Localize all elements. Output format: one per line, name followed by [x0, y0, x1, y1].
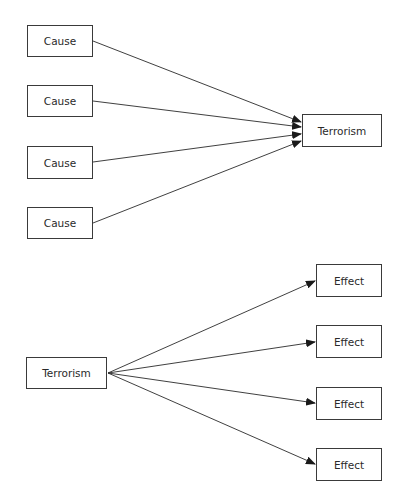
cause-label: Cause	[44, 35, 76, 47]
effect-box-4: Effect	[316, 448, 382, 481]
effect-label: Effect	[334, 459, 364, 471]
effect-box-1: Effect	[316, 264, 382, 297]
cause-label: Cause	[44, 95, 76, 107]
effect-box-2: Effect	[316, 325, 382, 358]
terrorism-label: Terrorism	[42, 367, 91, 379]
effect-box-3: Effect	[316, 387, 382, 420]
cause-label: Cause	[44, 217, 76, 229]
arrow-terrorism-to-effect-4	[108, 373, 315, 464]
arrow-cause-2-to-terrorism	[93, 101, 301, 127]
cause-box-2: Cause	[27, 85, 93, 117]
arrow-cause-1-to-terrorism	[93, 41, 301, 122]
effect-label: Effect	[334, 398, 364, 410]
effect-label: Effect	[334, 275, 364, 287]
terrorism-target-box: Terrorism	[302, 114, 382, 147]
terrorism-label: Terrorism	[318, 125, 367, 137]
cause-label: Cause	[44, 157, 76, 169]
arrow-cause-4-to-terrorism	[93, 141, 301, 223]
arrow-terrorism-to-effect-3	[108, 373, 315, 403]
arrow-terrorism-to-effect-2	[108, 342, 315, 373]
arrows-layer	[0, 0, 404, 503]
cause-box-1: Cause	[27, 25, 93, 57]
terrorism-source-box: Terrorism	[26, 357, 107, 389]
cause-box-3: Cause	[27, 146, 93, 179]
arrow-cause-3-to-terrorism	[93, 134, 301, 162]
arrow-terrorism-to-effect-1	[108, 281, 315, 373]
cause-box-4: Cause	[27, 207, 93, 239]
effect-label: Effect	[334, 336, 364, 348]
